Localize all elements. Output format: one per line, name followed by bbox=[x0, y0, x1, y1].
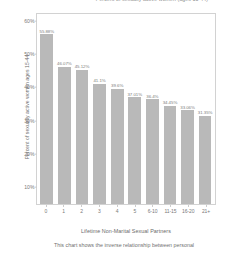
bar-slot: 55.88% bbox=[38, 14, 56, 204]
bars-layer: 55.88%46.07%45.12%41.1%39.6%37.01%36.4%3… bbox=[37, 14, 215, 204]
x-axis-tick-mark-slot bbox=[73, 205, 91, 207]
bar-slot: 37.01% bbox=[126, 14, 144, 204]
x-axis-tick-label: 5 bbox=[126, 208, 144, 214]
x-axis-tick-mark bbox=[99, 205, 100, 207]
bar-slot: 36.4% bbox=[144, 14, 162, 204]
bar: 31.35% bbox=[199, 116, 212, 204]
x-axis-tick-mark bbox=[206, 205, 207, 207]
x-axis-tick-mark bbox=[170, 205, 171, 207]
bar-value-label: 46.07% bbox=[57, 61, 72, 66]
bar-slot: 31.35% bbox=[196, 14, 214, 204]
bar: 45.12% bbox=[76, 70, 89, 204]
bar-slot: 45.12% bbox=[73, 14, 91, 204]
x-axis-tick-mark-slot bbox=[55, 205, 73, 207]
x-axis-tick-mark-slot bbox=[144, 205, 162, 207]
x-axis-tick-mark bbox=[81, 205, 82, 207]
chart-title: Percent of sexually active women (ages 1… bbox=[62, 0, 242, 6]
x-axis-tick-mark-slot bbox=[197, 205, 215, 207]
x-axis-tick-mark-slot bbox=[162, 205, 180, 207]
x-axis-tick-mark-slot bbox=[90, 205, 108, 207]
y-axis-tick-label: 10% bbox=[24, 184, 34, 190]
bar: 39.6% bbox=[111, 89, 124, 204]
x-axis-tick-label: 11-15 bbox=[162, 208, 180, 214]
bar-value-label: 36.4% bbox=[146, 94, 158, 99]
bar-value-label: 41.1% bbox=[93, 78, 105, 83]
bar: 33.06% bbox=[181, 110, 194, 204]
plot-area: 60%50%40%30%20%10% 55.88%46.07%45.12%41.… bbox=[36, 13, 216, 205]
x-axis-tick-mark-slot bbox=[126, 205, 144, 207]
bar: 55.88% bbox=[40, 34, 53, 204]
bar-value-label: 55.88% bbox=[40, 29, 55, 34]
bar: 46.07% bbox=[58, 67, 71, 204]
y-axis-tick-label: 20% bbox=[24, 151, 34, 157]
x-axis-tick-label: 0 bbox=[37, 208, 55, 214]
bar-slot: 34.45% bbox=[161, 14, 179, 204]
x-axis-tick-labels: 0123456-1011-1516-2021+ bbox=[36, 208, 216, 214]
bar-slot: 41.1% bbox=[91, 14, 109, 204]
x-axis-tick-mark-slot bbox=[108, 205, 126, 207]
x-axis-tick-mark bbox=[63, 205, 64, 207]
x-axis-tick-label: 1 bbox=[55, 208, 73, 214]
x-axis-tick-label: 16-20 bbox=[179, 208, 197, 214]
bar-slot: 39.6% bbox=[108, 14, 126, 204]
x-axis-title: Lifetime Non-Marital Sexual Partners bbox=[36, 228, 216, 234]
y-axis-tick-label: 60% bbox=[24, 18, 34, 24]
x-axis-tick-label: 21+ bbox=[197, 208, 215, 214]
x-axis-tick-mark bbox=[135, 205, 136, 207]
x-axis-tick-label: 6-10 bbox=[144, 208, 162, 214]
bar-value-label: 45.12% bbox=[75, 64, 90, 69]
x-axis-tick-mark bbox=[152, 205, 153, 207]
bar-chart-figure: Percent of sexually active women (ages 1… bbox=[0, 0, 247, 253]
bar-slot: 46.07% bbox=[56, 14, 74, 204]
bar-value-label: 39.6% bbox=[111, 83, 123, 88]
bar: 34.45% bbox=[164, 106, 177, 204]
bar-slot: 33.06% bbox=[179, 14, 197, 204]
x-axis-tick-mark-slot bbox=[179, 205, 197, 207]
bar-value-label: 37.01% bbox=[127, 92, 142, 97]
x-axis-tick-label: 3 bbox=[90, 208, 108, 214]
x-axis-tick-label: 2 bbox=[73, 208, 91, 214]
x-axis-tick-label: 4 bbox=[108, 208, 126, 214]
bar-value-label: 34.45% bbox=[163, 100, 178, 105]
y-axis-tick-label: 50% bbox=[24, 51, 34, 57]
x-axis-tick-marks bbox=[36, 205, 216, 207]
x-axis-tick-mark bbox=[117, 205, 118, 207]
x-axis-tick-mark-slot bbox=[37, 205, 55, 207]
chart-caption: This chart shows the inverse relationshi… bbox=[14, 242, 234, 248]
bar-value-label: 33.06% bbox=[180, 105, 195, 110]
y-axis-tick-label: 30% bbox=[24, 118, 34, 124]
bar: 36.4% bbox=[146, 99, 159, 204]
bar-value-label: 31.35% bbox=[198, 110, 213, 115]
bar: 41.1% bbox=[93, 84, 106, 204]
x-axis-tick-mark bbox=[46, 205, 47, 207]
bar: 37.01% bbox=[128, 97, 141, 204]
x-axis-tick-mark bbox=[188, 205, 189, 207]
y-axis-tick-label: 40% bbox=[24, 84, 34, 90]
